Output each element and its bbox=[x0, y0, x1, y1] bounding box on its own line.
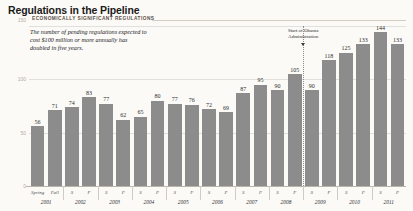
chart-page: Regulations in the Pipeline 150 ECONOMIC… bbox=[0, 0, 413, 211]
x-axis-season-label: F bbox=[115, 188, 132, 197]
x-axis-year-label: 2006 bbox=[200, 197, 234, 207]
x-axis-season-label: S bbox=[235, 188, 252, 197]
annotation-line: Administration bbox=[268, 34, 338, 40]
bar-value-label: 77 bbox=[98, 96, 115, 102]
bar[interactable] bbox=[271, 90, 285, 186]
year-group-separator bbox=[269, 186, 270, 200]
bar-value-label: 71 bbox=[46, 103, 63, 109]
x-axis-season-label: F bbox=[389, 188, 406, 197]
x-axis-year-label: 2008 bbox=[269, 197, 303, 207]
bar-slot[interactable]: 77 bbox=[166, 26, 183, 186]
bar-value-label: 95 bbox=[252, 77, 269, 83]
bar[interactable] bbox=[116, 120, 130, 186]
year-group-separator bbox=[200, 186, 201, 200]
bar-slot[interactable]: 105 bbox=[286, 26, 303, 186]
y-axis-tick-label: 0 bbox=[12, 183, 26, 189]
bar[interactable] bbox=[339, 53, 353, 186]
bar[interactable] bbox=[134, 117, 148, 186]
bar[interactable] bbox=[99, 104, 113, 186]
bar-value-label: 69 bbox=[218, 105, 235, 111]
y-axis-tick-label: 50 bbox=[12, 130, 26, 136]
bar-slot[interactable]: 144 bbox=[372, 26, 389, 186]
bar-slot[interactable]: 71 bbox=[46, 26, 63, 186]
bar[interactable] bbox=[236, 93, 250, 186]
bar[interactable] bbox=[48, 110, 62, 186]
bar-slot[interactable]: 125 bbox=[338, 26, 355, 186]
year-group-separator bbox=[132, 186, 133, 200]
bar-slot[interactable]: 56 bbox=[29, 26, 46, 186]
x-axis-year-label: 2011 bbox=[372, 197, 406, 207]
bar[interactable] bbox=[288, 74, 302, 186]
x-axis-season-label: F bbox=[183, 188, 200, 197]
bar-value-label: 74 bbox=[63, 100, 80, 106]
x-axis-year-label: 2007 bbox=[235, 197, 269, 207]
bar-value-label: 90 bbox=[303, 83, 320, 89]
bar-value-label: 133 bbox=[355, 37, 372, 43]
bar[interactable] bbox=[356, 44, 370, 186]
bar-value-label: 65 bbox=[132, 109, 149, 115]
bar-slot[interactable]: 72 bbox=[200, 26, 217, 186]
bar-slot[interactable]: 76 bbox=[183, 26, 200, 186]
bar-value-label: 118 bbox=[320, 53, 337, 59]
bar-chart: 050100 567174837762658077767269879590105… bbox=[0, 26, 413, 211]
x-axis-season-label: Spring bbox=[29, 188, 46, 197]
bar-slot[interactable]: 74 bbox=[63, 26, 80, 186]
bar-value-label: 133 bbox=[389, 37, 406, 43]
kicker-row: 150 ECONOMICALLY SIGNIFICANT REGULATIONS bbox=[0, 16, 413, 25]
x-axis-season-labels: SpringFallSFSFSFSFSFSFSFSFSFSF bbox=[29, 188, 406, 197]
y-axis-tick-label: 100 bbox=[12, 76, 26, 82]
kicker-rule bbox=[152, 20, 406, 21]
bar-slot[interactable]: 69 bbox=[218, 26, 235, 186]
y-axis-top-label: 150 bbox=[12, 17, 26, 23]
bar-slot[interactable]: 118 bbox=[320, 26, 337, 186]
bar-value-label: 72 bbox=[200, 102, 217, 108]
year-group-separator bbox=[372, 186, 373, 200]
x-axis-season-label: S bbox=[338, 188, 355, 197]
bar-value-label: 56 bbox=[29, 119, 46, 125]
bar[interactable] bbox=[391, 44, 405, 186]
bar-value-label: 83 bbox=[80, 90, 97, 96]
bar[interactable] bbox=[202, 109, 216, 186]
x-axis-year-label: 2001 bbox=[29, 197, 63, 207]
bar-value-label: 105 bbox=[286, 67, 303, 73]
bar-slot[interactable]: 133 bbox=[389, 26, 406, 186]
bar-slot[interactable]: 133 bbox=[355, 26, 372, 186]
bar-value-label: 80 bbox=[149, 93, 166, 99]
bar-slot[interactable]: 87 bbox=[235, 26, 252, 186]
x-axis-year-label: 2009 bbox=[303, 197, 337, 207]
bar[interactable] bbox=[374, 32, 388, 186]
bar[interactable] bbox=[305, 90, 319, 186]
year-group-separator bbox=[337, 186, 338, 200]
bar[interactable] bbox=[82, 97, 96, 186]
bar[interactable] bbox=[322, 60, 336, 186]
bar-value-label: 77 bbox=[166, 96, 183, 102]
x-axis-year-labels: 2001200220032004200520062007200820092010… bbox=[29, 197, 406, 207]
bar-slot[interactable]: 90 bbox=[269, 26, 286, 186]
bar[interactable] bbox=[151, 101, 165, 186]
bar-slot[interactable]: 83 bbox=[80, 26, 97, 186]
bar-slot[interactable]: 95 bbox=[252, 26, 269, 186]
bar[interactable] bbox=[168, 104, 182, 186]
year-group-separator bbox=[303, 186, 304, 200]
year-group-separator bbox=[98, 186, 99, 200]
bar[interactable] bbox=[65, 107, 79, 186]
obama-marker-label: Start of ObamaAdministration bbox=[268, 28, 338, 41]
bar[interactable] bbox=[254, 85, 268, 186]
x-axis-season-label: F bbox=[80, 188, 97, 197]
bar-slot[interactable]: 65 bbox=[132, 26, 149, 186]
x-axis-season-label: F bbox=[252, 188, 269, 197]
x-axis-season-label: F bbox=[286, 188, 303, 197]
bar-slot[interactable]: 80 bbox=[149, 26, 166, 186]
bar-value-label: 62 bbox=[115, 112, 132, 118]
x-axis-year-label: 2004 bbox=[132, 197, 166, 207]
x-axis-season-label: S bbox=[63, 188, 80, 197]
x-axis-season-label: F bbox=[355, 188, 372, 197]
bar-slot[interactable]: 77 bbox=[98, 26, 115, 186]
x-axis-season-label: F bbox=[218, 188, 235, 197]
bar-slot[interactable]: 90 bbox=[303, 26, 320, 186]
bar[interactable] bbox=[31, 126, 45, 186]
bar[interactable] bbox=[185, 105, 199, 186]
bar-slot[interactable]: 62 bbox=[115, 26, 132, 186]
bar[interactable] bbox=[219, 112, 233, 186]
x-axis-year-label: 2005 bbox=[166, 197, 200, 207]
